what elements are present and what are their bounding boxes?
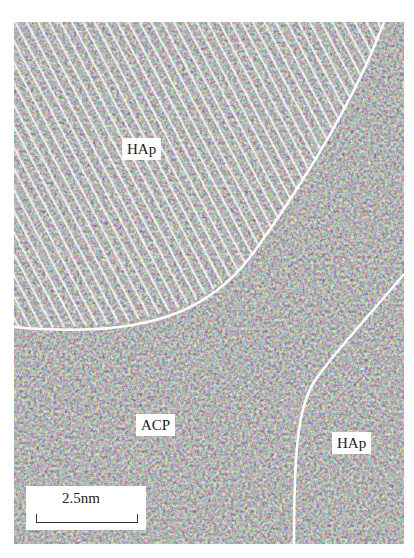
- tem-micrograph: HAp ACP HAp 2.5nm: [14, 22, 404, 544]
- scale-bar-label: 2.5nm: [62, 490, 100, 507]
- scale-bar: [36, 514, 138, 523]
- region-label-acp: ACP: [136, 414, 175, 436]
- scale-bar-box: 2.5nm: [26, 486, 146, 530]
- micrograph-texture: [14, 22, 404, 544]
- region-label-hap-lower: HAp: [332, 432, 371, 454]
- region-label-hap-upper: HAp: [122, 138, 161, 160]
